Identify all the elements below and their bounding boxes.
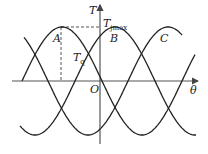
y-axis-label: T — [89, 4, 98, 17]
curve-a-label: A — [52, 32, 61, 45]
tq-label: Tq — [73, 51, 85, 66]
origin-label: O — [90, 83, 99, 96]
x-axis-label: θ — [190, 84, 197, 97]
curve-b-label: B — [109, 32, 118, 45]
tjmax-label: Tjmax — [103, 17, 127, 32]
torque-angle-diagram: T θ O A B C Tjmax Tq — [0, 0, 208, 154]
curve-c-label: C — [160, 32, 169, 45]
